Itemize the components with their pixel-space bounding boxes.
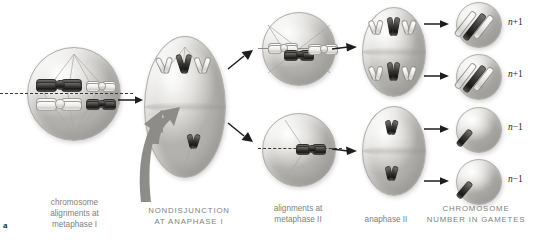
spindle-fibers-metaphase-i [28, 48, 120, 140]
cleavage-furrow-anaphase-ii-bottom [363, 146, 425, 156]
cleavage-furrow-anaphase-ii-top [363, 47, 425, 57]
arrow-anaphase-i-to-metaphase-ii-bottom [228, 120, 254, 142]
cell-metaphase-i [27, 47, 121, 141]
panel-letter: a [3, 220, 8, 230]
caption-metaphase-ii-line-1: alignments at [248, 203, 348, 214]
arrow-to-gamete-2 [424, 71, 450, 81]
gamete-4-sign: −1 [513, 174, 523, 184]
arrow-metaphase-ii-top-to-anaphase-ii [332, 42, 358, 54]
gamete-1-sign: +1 [513, 17, 523, 27]
gamete-2-sign: +1 [513, 69, 523, 79]
chromosome-large-light-bottom [36, 98, 82, 109]
caption-metaphase-i-line-2: alignments at [22, 208, 127, 219]
caption-nondisjunction: NONDISJUNCTION AT ANAPHASE I [128, 205, 250, 227]
caption-nondisjunction-line-1: NONDISJUNCTION [128, 205, 250, 216]
caption-nondisjunction-line-2: AT ANAPHASE I [128, 216, 250, 227]
chromosome-metaphase-ii-bottom-1 [296, 144, 326, 153]
gamete-cell-4 [456, 159, 502, 205]
metaphase-plate-line-i [0, 93, 133, 94]
chromosome-small-light-top [86, 81, 116, 90]
chromosome-small-dark-bottom [86, 99, 116, 108]
gamete-cell-3 [456, 107, 502, 153]
arrow-to-gamete-4 [424, 176, 450, 186]
caption-metaphase-i-line-3: metaphase I [22, 219, 127, 230]
gamete-label-3: n−1 [508, 122, 523, 132]
gamete-3-sign: −1 [513, 122, 523, 132]
gamete-label-4: n−1 [508, 174, 523, 184]
arrow-to-gamete-1 [424, 19, 450, 29]
caption-metaphase-ii-line-2: metaphase II [248, 214, 348, 225]
caption-metaphase-i-line-1: chromosome [22, 197, 127, 208]
arrow-to-gamete-3 [424, 124, 450, 134]
gamete-cell-1 [456, 2, 502, 48]
gamete-label-1: n+1 [508, 17, 523, 27]
figure-canvas: a [0, 0, 542, 243]
gamete-label-2: n+1 [508, 69, 523, 79]
arrow-anaphase-i-to-metaphase-ii-top [228, 50, 254, 72]
caption-metaphase-ii: alignments at metaphase II [248, 203, 348, 225]
caption-gametes-line-1: CHROMOSOME [410, 203, 542, 214]
arrow-metaphase-ii-bottom-to-anaphase-ii [332, 144, 358, 156]
caption-gametes: CHROMOSOME NUMBER IN GAMETES [410, 203, 542, 225]
caption-metaphase-i: chromosome alignments at metaphase I [22, 197, 127, 230]
chromosome-large-dark-top [36, 79, 82, 90]
gamete-cell-2 [456, 54, 502, 100]
caption-gametes-line-2: NUMBER IN GAMETES [410, 214, 542, 225]
nondisjunction-arrow-icon [136, 84, 194, 208]
